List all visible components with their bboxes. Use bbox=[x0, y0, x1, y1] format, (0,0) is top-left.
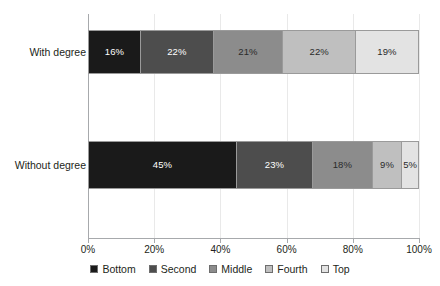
legend-item-fourth[interactable]: Fourth bbox=[265, 263, 307, 275]
legend-swatch-icon bbox=[209, 265, 217, 273]
x-tick-label: 20% bbox=[144, 244, 164, 255]
legend-swatch-icon bbox=[265, 265, 273, 273]
legend-swatch-icon bbox=[90, 265, 98, 273]
legend-label: Top bbox=[333, 263, 350, 275]
legend-item-second[interactable]: Second bbox=[149, 263, 197, 275]
x-axis-tick bbox=[154, 238, 155, 243]
legend-swatch-icon bbox=[321, 265, 329, 273]
x-tick-label: 80% bbox=[343, 244, 363, 255]
bar-with-degree[interactable]: 16%22%21%22%19% bbox=[88, 30, 419, 74]
x-axis-tick bbox=[88, 238, 89, 243]
bar-segment-middle[interactable]: 21% bbox=[214, 30, 284, 74]
legend-label: Bottom bbox=[102, 263, 135, 275]
segment-value-label: 16% bbox=[105, 47, 124, 57]
segment-value-label: 18% bbox=[333, 160, 352, 170]
bar-segment-second[interactable]: 23% bbox=[237, 141, 313, 189]
legend-label: Fourth bbox=[277, 263, 307, 275]
bar-without-degree[interactable]: 45%23%18%9%5% bbox=[88, 141, 419, 189]
x-tick-label: 100% bbox=[406, 244, 432, 255]
bar-segment-top[interactable]: 19% bbox=[356, 30, 419, 74]
segment-value-label: 23% bbox=[265, 160, 284, 170]
legend-label: Middle bbox=[221, 263, 252, 275]
gridline bbox=[419, 14, 420, 238]
x-axis-line bbox=[88, 238, 419, 239]
legend-label: Second bbox=[161, 263, 197, 275]
x-axis-tick bbox=[353, 238, 354, 243]
x-tick-label: 0% bbox=[81, 244, 95, 255]
legend-item-bottom[interactable]: Bottom bbox=[90, 263, 135, 275]
segment-value-label: 19% bbox=[377, 47, 396, 57]
bar-segment-middle[interactable]: 18% bbox=[313, 141, 373, 189]
bar-segment-second[interactable]: 22% bbox=[141, 30, 214, 74]
legend-item-middle[interactable]: Middle bbox=[209, 263, 252, 275]
segment-value-label: 21% bbox=[238, 47, 257, 57]
bar-segment-bottom[interactable]: 45% bbox=[88, 141, 237, 189]
bar-segment-top[interactable]: 5% bbox=[402, 141, 419, 189]
legend-swatch-icon bbox=[149, 265, 157, 273]
x-axis-tick bbox=[287, 238, 288, 243]
segment-value-label: 5% bbox=[403, 160, 417, 170]
x-tick-label: 40% bbox=[210, 244, 230, 255]
category-label-with-degree: With degree bbox=[0, 46, 86, 58]
stacked-bar-chart: 16%22%21%22%19%45%23%18%9%5% With degree… bbox=[0, 0, 440, 286]
bar-segment-bottom[interactable]: 16% bbox=[88, 30, 141, 74]
bar-segment-fourth[interactable]: 9% bbox=[373, 141, 403, 189]
x-axis-tick bbox=[419, 238, 420, 243]
bar-segment-fourth[interactable]: 22% bbox=[283, 30, 356, 74]
x-tick-label: 60% bbox=[277, 244, 297, 255]
segment-value-label: 22% bbox=[167, 47, 186, 57]
x-axis-tick bbox=[220, 238, 221, 243]
chart-legend: BottomSecondMiddleFourthTop bbox=[0, 263, 440, 275]
segment-value-label: 22% bbox=[310, 47, 329, 57]
segment-value-label: 45% bbox=[153, 160, 172, 170]
legend-item-top[interactable]: Top bbox=[321, 263, 350, 275]
segment-value-label: 9% bbox=[380, 160, 394, 170]
category-label-without-degree: Without degree bbox=[0, 159, 86, 171]
